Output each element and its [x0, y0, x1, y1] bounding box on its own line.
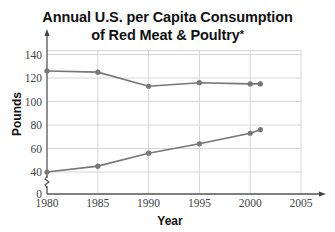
y-tick-label: 40 — [31, 166, 43, 178]
data-series — [44, 68, 263, 174]
data-point-marker — [248, 81, 253, 86]
x-tick-label: 1980 — [36, 197, 59, 209]
x-tick-label: 1985 — [86, 197, 109, 209]
data-point-marker — [95, 164, 100, 169]
series-red-meat — [44, 68, 263, 88]
y-axis-arrow-icon — [45, 29, 50, 36]
data-point-marker — [146, 151, 151, 156]
x-axis-arrow-icon — [319, 192, 326, 197]
y-tick-labels: 0406080100120140 — [25, 49, 43, 201]
data-point-marker — [197, 141, 202, 146]
data-point-marker — [44, 169, 49, 174]
data-point-marker — [248, 131, 253, 136]
x-tick-label: 1995 — [188, 197, 211, 209]
series-line — [47, 71, 260, 86]
x-tick-labels: 198019851990199520002005 — [36, 197, 313, 209]
x-tick-label: 2000 — [239, 197, 262, 209]
series-line — [47, 130, 260, 172]
data-point-marker — [258, 127, 263, 132]
data-point-marker — [197, 80, 202, 85]
data-point-marker — [44, 68, 49, 73]
x-axis-label: Year — [157, 214, 183, 228]
y-tick-label: 100 — [25, 96, 43, 108]
data-point-marker — [95, 70, 100, 75]
x-tick-label: 2005 — [290, 197, 313, 209]
series-poultry — [44, 127, 263, 174]
x-tick-label: 1990 — [137, 197, 160, 209]
data-point-marker — [146, 84, 151, 89]
y-tick-label: 120 — [25, 72, 43, 84]
y-tick-label: 60 — [31, 143, 43, 155]
y-axis-label: Pounds — [10, 92, 24, 136]
line-chart: 0406080100120140 19801985199019952000200… — [0, 0, 335, 232]
y-tick-label: 80 — [31, 119, 43, 131]
y-tick-label: 140 — [25, 49, 43, 61]
data-point-marker — [258, 81, 263, 86]
